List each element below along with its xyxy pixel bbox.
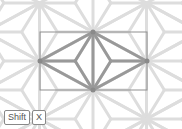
x-key: X [32,110,46,125]
modifier-keys: Shift X [4,110,46,125]
highlighted-diamond[interactable] [40,32,147,90]
shift-key: Shift [4,110,30,125]
